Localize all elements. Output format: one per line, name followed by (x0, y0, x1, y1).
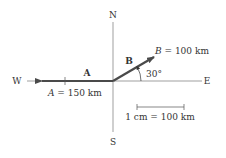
vector-a-label: A (83, 68, 92, 78)
vector-a-value: 150 km (68, 88, 102, 98)
scale-label: 1 cm = 100 km (125, 112, 195, 122)
vector-b-magnitude: B = 100 km (154, 46, 209, 56)
vector-b-equals: = (162, 46, 175, 56)
vector-b-value: 100 km (175, 46, 209, 56)
east-label: E (204, 76, 211, 86)
angle-arc (138, 68, 142, 82)
west-label: W (12, 76, 22, 86)
north-label: N (109, 10, 117, 20)
vector-a-equals: = (55, 88, 68, 98)
vector-a-magnitude: A = 150 km (47, 88, 102, 98)
vector-b-label: B (125, 56, 133, 66)
south-label: S (110, 137, 116, 147)
angle-label: 30° (146, 69, 162, 79)
vector-diagram: N S W E A A = 150 km B B = 100 km 30° 1 … (0, 0, 226, 158)
